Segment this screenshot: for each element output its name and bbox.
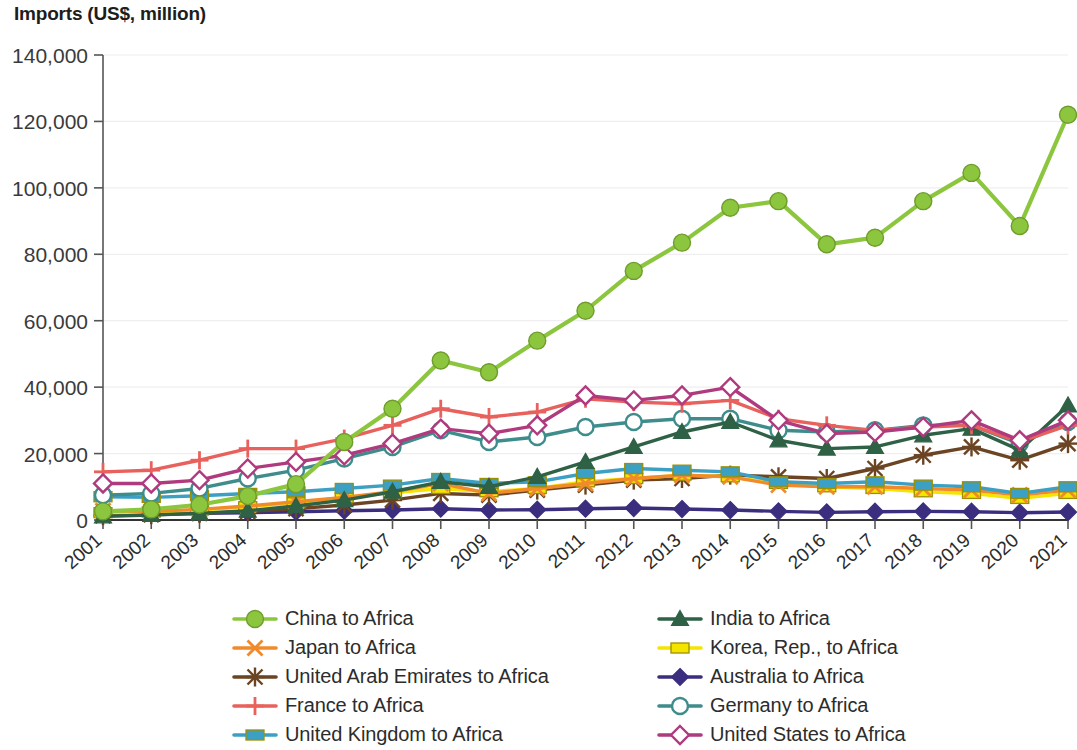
legend-label: China to Africa <box>285 607 414 630</box>
diamond-open-icon <box>657 723 703 747</box>
legend-label: United Kingdom to Africa <box>285 723 503 746</box>
svg-text:2020: 2020 <box>977 529 1022 573</box>
svg-text:2017: 2017 <box>832 529 877 573</box>
svg-text:2015: 2015 <box>736 529 781 573</box>
chart-legend: China to AfricaIndia to AfricaJapan to A… <box>232 604 1062 750</box>
legend-item-korea-rep-to-africa[interactable]: Korea, Rep., to Africa <box>657 636 1062 660</box>
svg-text:2019: 2019 <box>929 529 974 573</box>
svg-text:2001: 2001 <box>60 529 105 573</box>
svg-text:2003: 2003 <box>157 529 202 573</box>
svg-text:100,000: 100,000 <box>12 177 88 200</box>
svg-text:2002: 2002 <box>108 529 153 573</box>
svg-text:2018: 2018 <box>880 529 925 573</box>
svg-text:2010: 2010 <box>494 529 539 573</box>
asterisk-icon <box>232 665 278 689</box>
svg-text:2009: 2009 <box>446 529 491 573</box>
legend-label: India to Africa <box>710 607 830 630</box>
legend-item-germany-to-africa[interactable]: Germany to Africa <box>657 694 1062 718</box>
legend-item-china-to-africa[interactable]: China to Africa <box>232 607 657 631</box>
svg-text:2014: 2014 <box>687 529 733 573</box>
legend-label: Japan to Africa <box>285 636 416 659</box>
circle-open-icon <box>657 694 703 718</box>
legend-label: France to Africa <box>285 694 423 717</box>
svg-text:2021: 2021 <box>1025 529 1070 573</box>
legend-item-united-arab-emirates-to-africa[interactable]: United Arab Emirates to Africa <box>232 665 657 689</box>
legend-label: Korea, Rep., to Africa <box>710 636 898 659</box>
svg-text:2004: 2004 <box>205 529 251 573</box>
x-icon <box>232 636 278 660</box>
svg-text:2007: 2007 <box>350 529 395 573</box>
triangle-filled-icon <box>657 607 703 631</box>
svg-text:80,000: 80,000 <box>24 243 88 266</box>
legend-label: United States to Africa <box>710 723 906 746</box>
diamond-filled-icon <box>657 665 703 689</box>
svg-text:2011: 2011 <box>544 529 588 572</box>
svg-text:40,000: 40,000 <box>24 376 88 399</box>
square-filled-icon <box>232 723 278 747</box>
svg-text:0: 0 <box>76 509 88 532</box>
legend-item-united-kingdom-to-africa[interactable]: United Kingdom to Africa <box>232 723 657 747</box>
svg-text:2005: 2005 <box>253 529 298 573</box>
square-filled-icon <box>657 636 703 660</box>
legend-item-india-to-africa[interactable]: India to Africa <box>657 607 1062 631</box>
circle-filled-icon <box>232 607 278 631</box>
svg-text:2016: 2016 <box>784 529 829 573</box>
line-chart-svg: 020,00040,00060,00080,000100,000120,0001… <box>0 0 1077 600</box>
svg-text:2012: 2012 <box>591 529 636 573</box>
legend-item-australia-to-africa[interactable]: Australia to Africa <box>657 665 1062 689</box>
svg-text:60,000: 60,000 <box>24 310 88 333</box>
legend-label: United Arab Emirates to Africa <box>285 665 549 688</box>
legend-item-japan-to-africa[interactable]: Japan to Africa <box>232 636 657 660</box>
x-axis: 2001200220032004200520062007200820092010… <box>60 520 1070 573</box>
svg-text:2008: 2008 <box>398 529 443 573</box>
legend-label: Australia to Africa <box>710 665 864 688</box>
svg-text:2013: 2013 <box>639 529 684 573</box>
svg-text:140,000: 140,000 <box>12 44 88 67</box>
chart-plot-area: 020,00040,00060,00080,000100,000120,0001… <box>0 0 1077 600</box>
series-layer <box>94 106 1077 525</box>
plus-icon <box>232 694 278 718</box>
svg-text:120,000: 120,000 <box>12 110 88 133</box>
svg-text:2006: 2006 <box>301 529 346 573</box>
legend-item-france-to-africa[interactable]: France to Africa <box>232 694 657 718</box>
legend-item-united-states-to-africa[interactable]: United States to Africa <box>657 723 1062 747</box>
legend-label: Germany to Africa <box>710 694 868 717</box>
svg-text:20,000: 20,000 <box>24 443 88 466</box>
